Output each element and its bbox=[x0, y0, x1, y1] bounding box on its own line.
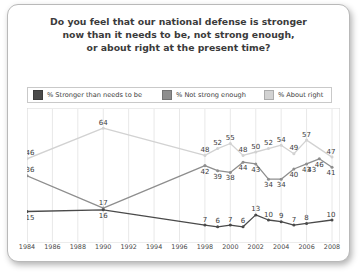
legend-item-about-right[interactable]: % About right bbox=[264, 90, 323, 100]
data-point[interactable] bbox=[229, 224, 232, 227]
data-point[interactable] bbox=[254, 213, 257, 216]
data-label: 7 bbox=[203, 216, 207, 224]
data-label: 48 bbox=[239, 146, 248, 154]
data-point[interactable] bbox=[292, 224, 295, 227]
data-point[interactable] bbox=[267, 147, 270, 150]
data-point[interactable] bbox=[280, 220, 283, 223]
legend-label-about-right: % About right bbox=[278, 91, 323, 99]
data-label: 13 bbox=[251, 205, 260, 213]
data-point[interactable] bbox=[203, 224, 206, 227]
data-label: 16 bbox=[99, 212, 108, 220]
data-label: 40 bbox=[289, 171, 298, 179]
x-tick-label: 2002 bbox=[248, 243, 264, 251]
x-tick-label: 1996 bbox=[171, 243, 187, 251]
data-label: 36 bbox=[27, 166, 35, 174]
line-chart: 4664485255485052544957473617423938444334… bbox=[27, 108, 340, 243]
data-point[interactable] bbox=[229, 142, 232, 145]
data-point[interactable] bbox=[242, 225, 245, 228]
legend-swatch-not-strong bbox=[162, 90, 172, 100]
data-label: 48 bbox=[200, 146, 209, 154]
data-label: 6 bbox=[241, 217, 246, 225]
title-line-1: Do you feel that our national defense is… bbox=[8, 15, 349, 28]
x-tick-label: 1992 bbox=[121, 243, 137, 251]
data-label: 64 bbox=[99, 119, 108, 127]
data-label: 43 bbox=[251, 166, 260, 174]
data-label: 17 bbox=[99, 199, 108, 207]
data-label: 8 bbox=[304, 214, 308, 222]
x-tick-label: 1994 bbox=[146, 243, 162, 251]
data-point[interactable] bbox=[242, 154, 245, 157]
data-label: 52 bbox=[264, 139, 273, 147]
x-tick-label: 2008 bbox=[324, 243, 340, 251]
data-point[interactable] bbox=[254, 151, 257, 154]
data-label: 7 bbox=[228, 216, 232, 224]
legend-item-stronger[interactable]: % Stronger than needs to be bbox=[33, 90, 142, 100]
legend-item-not-strong[interactable]: % Not strong enough bbox=[162, 90, 246, 100]
data-label: 47 bbox=[327, 148, 336, 156]
data-label: 9 bbox=[279, 212, 283, 220]
data-point[interactable] bbox=[331, 219, 334, 222]
data-label: 39 bbox=[213, 173, 222, 181]
data-label: 6 bbox=[215, 217, 220, 225]
data-label: 43 bbox=[307, 166, 316, 174]
data-label: 49 bbox=[289, 144, 298, 152]
x-axis: 1984198619881990199219941996199820002002… bbox=[27, 243, 340, 257]
data-point[interactable] bbox=[292, 152, 295, 155]
title-line-3: or about right at the present time? bbox=[8, 41, 349, 54]
x-tick-label: 2004 bbox=[273, 243, 289, 251]
data-point[interactable] bbox=[305, 222, 308, 225]
data-label: 50 bbox=[251, 143, 260, 151]
data-point[interactable] bbox=[216, 147, 219, 150]
data-label: 15 bbox=[27, 214, 34, 222]
data-label: 44 bbox=[239, 164, 248, 172]
data-label: 41 bbox=[327, 169, 336, 177]
data-label: 10 bbox=[327, 211, 336, 219]
legend-swatch-about-right bbox=[264, 90, 274, 100]
data-point[interactable] bbox=[331, 156, 334, 159]
page-title: Do you feel that our national defense is… bbox=[8, 15, 349, 55]
data-label: 46 bbox=[315, 161, 324, 169]
x-tick-label: 1998 bbox=[197, 243, 213, 251]
data-label: 57 bbox=[302, 131, 311, 139]
data-point[interactable] bbox=[216, 225, 219, 228]
x-tick-label: 2000 bbox=[222, 243, 238, 251]
x-tick-label: 1988 bbox=[70, 243, 86, 251]
chart-card: Do you feel that our national defense is… bbox=[7, 4, 350, 262]
chart-plot-area: 4664485255485052544957473617423938444334… bbox=[27, 108, 340, 243]
data-point[interactable] bbox=[305, 139, 308, 142]
x-tick-label: 2006 bbox=[298, 243, 314, 251]
data-label: 34 bbox=[264, 181, 273, 189]
data-point[interactable] bbox=[102, 127, 105, 130]
chart-legend: % Stronger than needs to be % Not strong… bbox=[27, 87, 332, 103]
data-label: 46 bbox=[27, 149, 35, 157]
title-line-2: now than it needs to be, not strong enou… bbox=[8, 28, 349, 41]
data-label: 38 bbox=[226, 174, 235, 182]
data-point[interactable] bbox=[267, 219, 270, 222]
x-tick-label: 1986 bbox=[44, 243, 60, 251]
x-tick-label: 1984 bbox=[19, 243, 35, 251]
legend-label-not-strong: % Not strong enough bbox=[176, 91, 246, 99]
legend-label-stronger: % Stronger than needs to be bbox=[47, 91, 142, 99]
data-label: 42 bbox=[200, 168, 209, 176]
data-point[interactable] bbox=[203, 154, 206, 157]
data-label: 10 bbox=[264, 211, 273, 219]
data-label: 34 bbox=[277, 181, 286, 189]
data-label: 54 bbox=[277, 136, 286, 144]
data-label: 55 bbox=[226, 134, 235, 142]
data-label: 52 bbox=[213, 139, 222, 147]
data-point[interactable] bbox=[280, 144, 283, 147]
x-tick-label: 1990 bbox=[95, 243, 111, 251]
legend-swatch-stronger bbox=[33, 90, 43, 100]
data-label: 7 bbox=[292, 216, 296, 224]
